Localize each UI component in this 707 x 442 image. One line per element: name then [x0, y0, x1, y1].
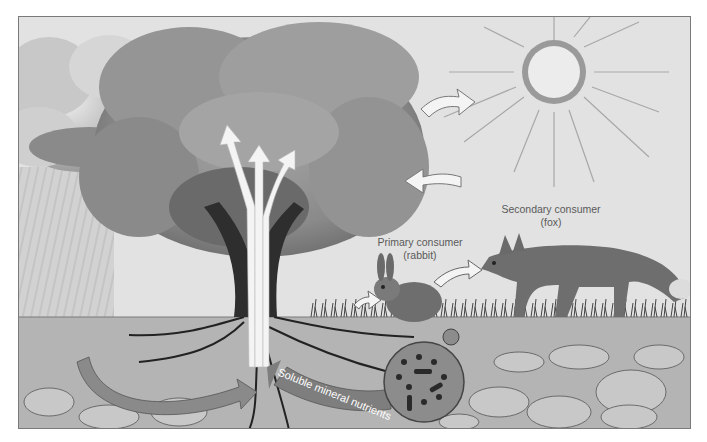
primary-consumer-animal: (rabbit) — [365, 249, 475, 262]
secondary-consumer-animal: (fox) — [481, 216, 621, 229]
ecosystem-diagram: Soluble mineral nutrients Secondary cons… — [18, 16, 691, 429]
primary-consumer-title: Primary consumer — [365, 236, 475, 249]
secondary-consumer-label: Secondary consumer (fox) — [481, 203, 621, 229]
primary-consumer-label: Primary consumer (rabbit) — [365, 236, 475, 262]
secondary-consumer-title: Secondary consumer — [481, 203, 621, 216]
